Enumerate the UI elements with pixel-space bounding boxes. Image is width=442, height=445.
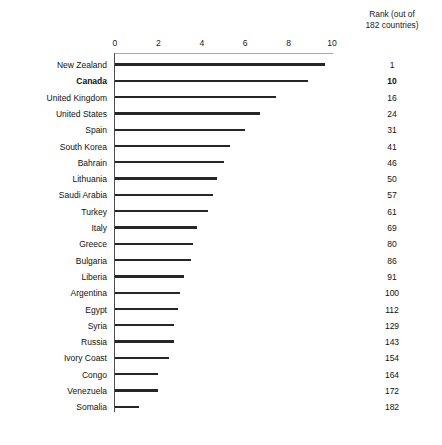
rank-value-italy: 69	[346, 223, 438, 234]
chart-row: Egypt112	[0, 305, 442, 321]
rank-value-argentina: 100	[346, 288, 438, 299]
chart-row: Bahrain46	[0, 158, 442, 174]
country-label-canada: Canada	[0, 76, 107, 87]
chart-row: Lithuania50	[0, 174, 442, 190]
country-label-lithuania: Lithuania	[0, 174, 107, 185]
country-label-bahrain: Bahrain	[0, 158, 107, 169]
bar-argentina	[115, 292, 180, 294]
rank-value-canada: 10	[346, 76, 438, 87]
rank-value-united-states: 24	[346, 109, 438, 120]
bar-turkey	[115, 210, 208, 212]
bar-egypt	[115, 308, 178, 310]
rank-value-congo: 164	[346, 370, 438, 381]
rank-value-south-korea: 41	[346, 142, 438, 153]
bar-new-zealand	[115, 63, 325, 65]
bar-congo	[115, 373, 158, 375]
chart-row: Syria129	[0, 321, 442, 337]
bar-united-kingdom	[115, 96, 276, 98]
rank-value-egypt: 112	[346, 305, 438, 316]
rank-value-liberia: 91	[346, 272, 438, 283]
rank-value-somalia: 182	[346, 402, 438, 413]
country-label-greece: Greece	[0, 239, 107, 250]
bar-saudi-arabia	[115, 194, 213, 196]
chart-row: Venezuela172	[0, 386, 442, 402]
country-label-ivory-coast: Ivory Coast	[0, 353, 107, 364]
chart-row: Greece80	[0, 239, 442, 255]
bar-south-korea	[115, 145, 230, 147]
chart-row: Congo164	[0, 370, 442, 386]
country-label-saudi-arabia: Saudi Arabia	[0, 190, 107, 201]
chart-row: Turkey61	[0, 207, 442, 223]
chart-row: United States24	[0, 109, 442, 125]
country-label-venezuela: Venezuela	[0, 386, 107, 397]
country-label-united-states: United States	[0, 109, 107, 120]
country-label-turkey: Turkey	[0, 207, 107, 218]
bar-somalia	[115, 406, 139, 408]
rank-value-new-zealand: 1	[346, 60, 438, 71]
country-label-united-kingdom: United Kingdom	[0, 93, 107, 104]
bar-lithuania	[115, 177, 217, 179]
bar-venezuela	[115, 389, 158, 391]
chart-row: Spain31	[0, 125, 442, 141]
country-label-bulgaria: Bulgaria	[0, 256, 107, 267]
bar-italy	[115, 226, 197, 228]
country-label-egypt: Egypt	[0, 305, 107, 316]
rank-value-syria: 129	[346, 321, 438, 332]
bar-chart: Rank (out of 182 countries) 0246810 New …	[0, 0, 442, 445]
bar-ivory-coast	[115, 357, 169, 359]
rank-value-ivory-coast: 154	[346, 353, 438, 364]
bar-bulgaria	[115, 259, 191, 261]
chart-row: Ivory Coast154	[0, 353, 442, 369]
rank-value-bahrain: 46	[346, 158, 438, 169]
bar-syria	[115, 324, 174, 326]
rank-value-greece: 80	[346, 239, 438, 250]
chart-row: Somalia182	[0, 402, 442, 418]
bar-russia	[115, 340, 174, 342]
chart-row: Bulgaria86	[0, 256, 442, 272]
bar-spain	[115, 129, 245, 131]
chart-row: Italy69	[0, 223, 442, 239]
rank-value-venezuela: 172	[346, 386, 438, 397]
country-label-congo: Congo	[0, 370, 107, 381]
chart-row: Russia143	[0, 337, 442, 353]
chart-rows: New Zealand1Canada10United Kingdom16Unit…	[0, 0, 442, 445]
rank-value-spain: 31	[346, 125, 438, 136]
country-label-italy: Italy	[0, 223, 107, 234]
bar-liberia	[115, 275, 184, 277]
country-label-syria: Syria	[0, 321, 107, 332]
bar-greece	[115, 243, 193, 245]
rank-value-saudi-arabia: 57	[346, 190, 438, 201]
country-label-somalia: Somalia	[0, 402, 107, 413]
rank-value-turkey: 61	[346, 207, 438, 218]
chart-row: Saudi Arabia57	[0, 190, 442, 206]
bar-united-states	[115, 112, 260, 114]
chart-row: United Kingdom16	[0, 93, 442, 109]
chart-row: New Zealand1	[0, 60, 442, 76]
country-label-russia: Russia	[0, 337, 107, 348]
bar-canada	[115, 80, 308, 82]
country-label-new-zealand: New Zealand	[0, 60, 107, 71]
country-label-south-korea: South Korea	[0, 142, 107, 153]
bar-bahrain	[115, 161, 224, 163]
country-label-argentina: Argentina	[0, 288, 107, 299]
country-label-spain: Spain	[0, 125, 107, 136]
chart-row: Liberia91	[0, 272, 442, 288]
chart-row: South Korea41	[0, 142, 442, 158]
country-label-liberia: Liberia	[0, 272, 107, 283]
rank-value-bulgaria: 86	[346, 256, 438, 267]
rank-value-lithuania: 50	[346, 174, 438, 185]
chart-row: Argentina100	[0, 288, 442, 304]
rank-value-russia: 143	[346, 337, 438, 348]
chart-row: Canada10	[0, 76, 442, 92]
rank-value-united-kingdom: 16	[346, 93, 438, 104]
